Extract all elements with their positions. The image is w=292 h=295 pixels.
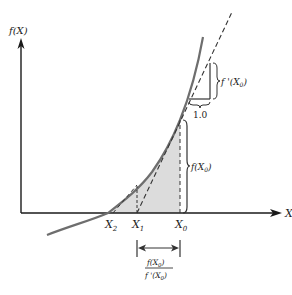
x0-label: X0 <box>174 218 188 233</box>
newton-raphson-diagram: f(X) X X2 X1 X0 f '(X0) 1.0 f(X0) f(X0) … <box>0 0 292 295</box>
run-brace <box>189 102 210 108</box>
function-value-label: f(X0) <box>190 162 212 173</box>
step-denominator: f '(X0) <box>144 271 167 281</box>
y-axis-label: f(X) <box>8 25 28 36</box>
derivative-brace <box>213 63 220 99</box>
x2-label: X2 <box>104 218 118 233</box>
tangent-line-x0 <box>137 12 232 213</box>
x1-label: X1 <box>131 218 144 233</box>
run-label: 1.0 <box>193 110 208 120</box>
function-value-brace <box>183 120 190 213</box>
step-numerator: f(X0) <box>146 258 165 268</box>
shaded-area <box>108 120 180 213</box>
x-axis-label: X <box>284 207 292 220</box>
derivative-label: f '(X0) <box>220 77 247 88</box>
